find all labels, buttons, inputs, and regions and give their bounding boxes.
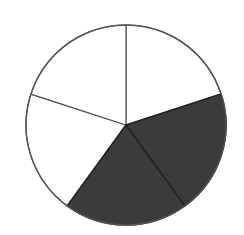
- pie-chart: [0, 0, 244, 235]
- pie-slices: [26, 25, 226, 225]
